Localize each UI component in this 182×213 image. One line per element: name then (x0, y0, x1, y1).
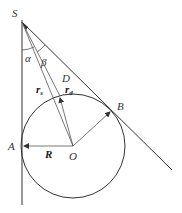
label-r-d: rd (65, 83, 73, 97)
label-beta: β (40, 56, 47, 68)
label-r: R (44, 148, 52, 160)
label-r-s: rs (36, 83, 43, 97)
alpha-arc (22, 47, 34, 50)
label-alpha: α (25, 52, 31, 64)
beta-arc (37, 45, 45, 52)
label-a: A (7, 140, 15, 152)
r-d-line (60, 98, 73, 146)
radius-ob-arrow (73, 112, 110, 146)
label-o: O (69, 150, 77, 162)
label-b: B (117, 100, 124, 112)
geometry-diagram: S α β D rs rd B A R O (0, 0, 182, 213)
label-s: S (12, 7, 18, 19)
